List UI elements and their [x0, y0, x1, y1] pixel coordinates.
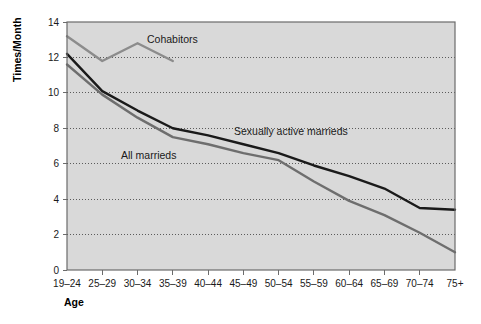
y-axis-title: Times/Month	[11, 17, 23, 82]
y-axis-tick-label: 14	[48, 17, 60, 28]
line-chart: 02468101214 19–2425–2930–3435–3940–4445–…	[0, 0, 481, 324]
x-axis-tick-label: 19–24	[53, 278, 81, 289]
y-axis-tick-label: 10	[48, 87, 60, 98]
y-axis-tick-label: 6	[53, 158, 59, 169]
x-axis-tick-label: 30–34	[124, 278, 152, 289]
x-axis-tick-label: 60–64	[335, 278, 363, 289]
series-label: Sexually active marrieds	[234, 125, 348, 137]
series-label: All marrieds	[121, 149, 176, 161]
y-axis-tick-label: 8	[53, 123, 59, 134]
x-axis-tick-label: 50–54	[265, 278, 293, 289]
chart-container: 02468101214 19–2425–2930–3435–3940–4445–…	[0, 0, 481, 324]
series-label: Cohabitors	[147, 33, 198, 45]
x-axis-tick-label: 25–29	[88, 278, 116, 289]
y-axis-tick-label: 0	[53, 265, 59, 276]
x-axis-tick-label: 70–74	[406, 278, 434, 289]
x-axis-tick-label: 65–69	[371, 278, 399, 289]
x-axis-tick-label: 55–59	[300, 278, 328, 289]
plot-area-background	[67, 22, 455, 270]
x-axis-tick-label: 45–49	[229, 278, 257, 289]
y-axis-tick-label: 4	[53, 194, 59, 205]
x-axis-tick-label: 40–44	[194, 278, 222, 289]
x-axis-tick-label: 35–39	[159, 278, 187, 289]
y-axis-tick-label: 2	[53, 229, 59, 240]
x-axis-title: Age	[64, 296, 84, 308]
x-axis-tick-label: 75+	[447, 278, 464, 289]
y-axis-tick-label: 12	[48, 52, 60, 63]
